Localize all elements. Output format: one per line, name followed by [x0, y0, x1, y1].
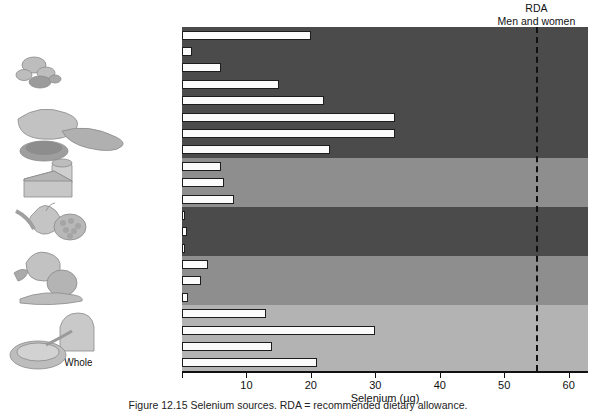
rda-annotation-label: RDA Men and women: [466, 2, 596, 27]
vegetables-band: [182, 256, 588, 305]
bar-1-milk-1-c: [182, 162, 221, 171]
x-axis-tick-label: 30: [369, 379, 381, 391]
bar-chicken-3-oz: [182, 145, 330, 154]
bar-beef-3-oz: [182, 96, 324, 105]
x-axis-tick: [504, 373, 505, 378]
bar-white-bread-2-sl: [182, 342, 272, 351]
category-label: Spaghetti (1 c): [111, 325, 176, 335]
category-label: Chicken (3 oz): [112, 145, 176, 155]
x-axis-tick-label: 10: [240, 379, 252, 391]
bar-oatmeal-1-c: [182, 309, 266, 318]
dairy-band: [182, 158, 588, 207]
bar-eggs-1: [182, 80, 279, 89]
bar-whole-wheat-bread-2-sl: [182, 358, 317, 367]
bar-crab-3-oz: [182, 113, 395, 122]
category-label: Salmon (3 oz): [114, 128, 176, 138]
category-label: Beef (3 oz): [127, 96, 176, 106]
bar-spinach-cooked-1-c: [182, 276, 201, 285]
bar-cheese-cheddar-1-5-oz: [182, 178, 224, 187]
category-label: Yogurt (1 c): [125, 194, 176, 204]
x-axis: [182, 371, 588, 373]
category-label: Orange (1 med): [105, 210, 176, 220]
rda-label-line2: Men and women: [466, 15, 596, 28]
category-label: Crab (3 oz): [126, 112, 176, 122]
bar-apple-1-med: [182, 244, 185, 253]
rda-label-line1: RDA: [466, 2, 596, 15]
bar-walnuts-1-4-c: [182, 47, 192, 56]
x-axis-tick: [246, 373, 247, 378]
category-label: White bread (2 sl): [97, 341, 176, 351]
bar-orange-1-med: [182, 211, 185, 220]
bar-broccoli-cooked-1-c: [182, 260, 208, 269]
bar-potato-baked-1-med: [182, 293, 188, 302]
x-axis-tick: [375, 373, 376, 378]
category-label: Sunflower seeds (1/4 c): [71, 30, 176, 40]
category-label: Broccoli, cooked (1 c): [80, 260, 176, 270]
category-label: Potato, baked (1 med): [77, 292, 176, 302]
category-label-group: Sunflower seeds (1/4 c)Walnuts (1/4 c)Le…: [0, 27, 180, 371]
x-axis-tick: [569, 373, 570, 378]
category-label: Cheese, cheddar (1.5 oz): [63, 178, 176, 188]
category-label: Lentils (1 c): [124, 63, 176, 73]
category-label: Apple (1 med): [113, 243, 176, 253]
bar-kiwi-2-med: [182, 227, 187, 236]
category-label: 1% milk (1 c): [118, 161, 176, 171]
bar-yogurt-1-c: [182, 195, 234, 204]
bar-spaghetti-1-c: [182, 326, 375, 335]
category-label: Walnuts (1/4 c): [109, 47, 176, 57]
x-axis-tick: [182, 373, 183, 378]
category-label: Eggs (1): [138, 79, 176, 89]
protein-foods-band: [182, 27, 588, 158]
x-axis-tick-label: 50: [498, 379, 510, 391]
fruits-band: [182, 207, 588, 256]
figure-caption: Figure 12.15 Selenium sources. RDA = rec…: [0, 399, 596, 411]
x-axis-tick: [440, 373, 441, 378]
x-axis-tick-label: 20: [305, 379, 317, 391]
bar-sunflower-seeds-1-4-c: [182, 31, 311, 40]
x-axis-tick: [311, 373, 312, 378]
category-label: Whole-wheat bread (2 sl): [64, 358, 176, 368]
category-label: Oatmeal (1 c): [115, 309, 176, 319]
plot-area: [182, 27, 588, 371]
x-axis-tick-label: 40: [434, 379, 446, 391]
category-label: Kiwi (2 med): [120, 227, 176, 237]
rda-reference-line: [536, 27, 538, 371]
bar-salmon-3-oz: [182, 129, 395, 138]
category-label: Spinach, cooked (1 c): [79, 276, 176, 286]
bar-lentils-1-c: [182, 63, 221, 72]
x-axis-tick-label: 60: [563, 379, 575, 391]
